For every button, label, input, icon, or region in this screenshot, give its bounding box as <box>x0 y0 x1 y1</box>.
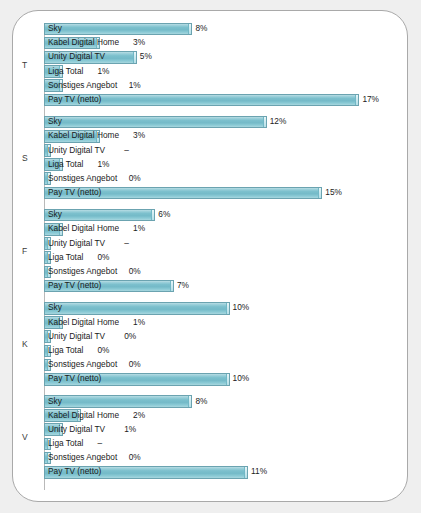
bar-end-cap <box>59 224 62 235</box>
bar-fill <box>44 116 267 129</box>
bar-row: Liga Total– <box>44 437 396 451</box>
bar <box>44 345 51 358</box>
bar-value-label: 0% <box>98 344 110 358</box>
bar-fill <box>44 423 63 436</box>
bar-end-cap <box>59 159 62 170</box>
bar-end-cap <box>47 439 50 450</box>
bar-category-label: Sonstiges Angebot <box>48 358 117 372</box>
bar-fill <box>44 373 230 386</box>
bar-fill <box>44 187 322 200</box>
bar <box>44 237 51 250</box>
bar <box>44 409 81 422</box>
bar-row: Sonstiges Angebot0% <box>44 451 396 465</box>
group-label: F <box>22 246 28 256</box>
bar-end-cap <box>47 331 50 342</box>
bar-fill <box>44 94 359 107</box>
group-label: K <box>22 339 28 349</box>
bar <box>44 51 137 64</box>
bar <box>44 158 63 171</box>
bar-end-cap <box>47 346 50 357</box>
bar-value-label: 3% <box>133 36 145 50</box>
bar-fill <box>44 266 51 279</box>
bar-row: Unity Digital TV5% <box>44 50 396 64</box>
bar-row: Sonstiges Angebot0% <box>44 358 396 372</box>
bar-fill <box>44 130 100 143</box>
bar <box>44 144 51 157</box>
bar-fill <box>44 79 63 92</box>
bar-value-label: 0% <box>98 251 110 265</box>
group-label: V <box>22 432 28 442</box>
bar-fill <box>44 158 63 171</box>
bar-row: Pay TV (netto)10% <box>44 372 396 386</box>
bar <box>44 280 174 293</box>
bar-value-label: 0% <box>129 451 141 465</box>
bar-value-label: 0% <box>124 330 136 344</box>
bar-fill <box>44 51 137 64</box>
bar-value-label: 1% <box>98 65 110 79</box>
bar <box>44 330 51 343</box>
bar-end-cap <box>77 410 80 421</box>
bar-fill <box>44 409 81 422</box>
bar <box>44 130 100 143</box>
bar-value-label: 1% <box>133 316 145 330</box>
bar-end-cap <box>170 281 173 292</box>
bar-value-label: 0% <box>129 358 141 372</box>
bar-fill <box>44 316 63 329</box>
bar-category-label: Unity Digital TV <box>48 330 105 344</box>
bar-value-label: – <box>124 144 129 158</box>
bar-row: Sonstiges Angebot0% <box>44 265 396 279</box>
bar-row: Sonstiges Angebot0% <box>44 172 396 186</box>
bar-row: Liga Total0% <box>44 251 396 265</box>
bar <box>44 373 230 386</box>
bar-end-cap <box>59 66 62 77</box>
bar-end-cap <box>96 38 99 49</box>
bar-value-label: 1% <box>124 423 136 437</box>
bar-value-label: 7% <box>177 279 189 293</box>
bar-row: Sky10% <box>44 301 396 315</box>
bar <box>44 172 51 185</box>
bar-row: Sky8% <box>44 22 396 36</box>
bar-row: Unity Digital TV1% <box>44 423 396 437</box>
bar-row: Pay TV (netto)17% <box>44 93 396 107</box>
bar <box>44 65 63 78</box>
bar-category-label: Sonstiges Angebot <box>48 451 117 465</box>
bar-row: Sky8% <box>44 395 396 409</box>
bar-fill <box>44 37 100 50</box>
bar <box>44 438 51 451</box>
bar <box>44 209 155 222</box>
bar <box>44 302 230 315</box>
bar-row: Liga Total0% <box>44 344 396 358</box>
bar-value-label: 10% <box>233 301 250 315</box>
bar-value-label: 17% <box>362 93 379 107</box>
bar-end-cap <box>47 145 50 156</box>
bar-value-label: 10% <box>233 372 250 386</box>
bar-row: Kabel Digital Home1% <box>44 316 396 330</box>
bar-fill <box>44 144 51 157</box>
bar-fill <box>44 23 192 36</box>
bar-fill <box>44 251 51 264</box>
bar-end-cap <box>47 238 50 249</box>
bar-end-cap <box>59 80 62 91</box>
bar-value-label: – <box>124 237 129 251</box>
bar-row: Pay TV (netto)11% <box>44 465 396 479</box>
bar <box>44 37 100 50</box>
bar-row: Sky6% <box>44 208 396 222</box>
bar-row: Sonstiges Angebot1% <box>44 79 396 93</box>
bar-row: Kabel Digital Home3% <box>44 36 396 50</box>
bar-end-cap <box>47 267 50 278</box>
bar-row: Liga Total1% <box>44 158 396 172</box>
bar-value-label: 5% <box>140 50 152 64</box>
bar-row: Kabel Digital Home1% <box>44 222 396 236</box>
bar-end-cap <box>244 467 247 478</box>
bar-value-label: 15% <box>325 186 342 200</box>
bar-end-cap <box>59 317 62 328</box>
bar-value-label: 2% <box>133 409 145 423</box>
bar <box>44 79 63 92</box>
bar-row: Pay TV (netto)7% <box>44 279 396 293</box>
bar-row: Kabel Digital Home3% <box>44 129 396 143</box>
bar-row: Unity Digital TV– <box>44 144 396 158</box>
bar-fill <box>44 237 51 250</box>
bar-end-cap <box>188 396 191 407</box>
bar-end-cap <box>133 52 136 63</box>
bar-end-cap <box>188 24 191 35</box>
